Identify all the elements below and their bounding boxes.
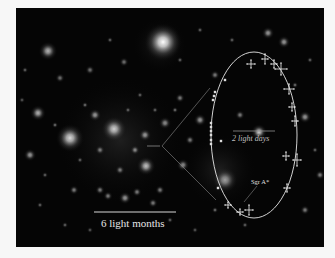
star bbox=[103, 191, 113, 201]
star bbox=[197, 27, 203, 33]
star bbox=[307, 57, 313, 63]
star bbox=[30, 105, 46, 121]
measurement-point bbox=[210, 130, 212, 132]
star bbox=[299, 111, 312, 124]
star bbox=[137, 92, 143, 98]
star bbox=[235, 110, 245, 120]
star bbox=[107, 37, 113, 43]
star bbox=[136, 156, 155, 175]
star bbox=[300, 205, 310, 215]
star bbox=[87, 227, 93, 233]
star bbox=[159, 117, 172, 130]
star bbox=[95, 185, 105, 195]
measurement-point bbox=[224, 79, 226, 81]
star bbox=[56, 124, 85, 153]
star bbox=[312, 147, 318, 153]
star bbox=[55, 73, 65, 83]
star bbox=[19, 97, 25, 103]
star bbox=[77, 157, 83, 163]
star bbox=[89, 109, 102, 122]
star bbox=[229, 37, 235, 43]
star bbox=[38, 41, 57, 60]
star bbox=[212, 167, 238, 193]
star bbox=[278, 36, 291, 49]
star bbox=[144, 23, 182, 61]
star bbox=[125, 107, 131, 113]
star bbox=[62, 222, 68, 228]
star bbox=[24, 149, 37, 162]
star bbox=[119, 57, 129, 67]
star bbox=[130, 145, 140, 155]
star bbox=[167, 217, 173, 223]
star bbox=[175, 93, 185, 103]
astronomy-image bbox=[0, 0, 335, 258]
star bbox=[177, 57, 183, 63]
star bbox=[85, 65, 95, 75]
measurement-point bbox=[210, 134, 212, 136]
star bbox=[155, 185, 165, 195]
star bbox=[292, 82, 298, 88]
star bbox=[185, 135, 195, 145]
star bbox=[95, 145, 105, 155]
star bbox=[119, 192, 132, 205]
measurement-point bbox=[213, 95, 215, 97]
inset-scale-label: 2 light days bbox=[232, 134, 269, 143]
star bbox=[315, 170, 325, 180]
star bbox=[37, 202, 43, 208]
star bbox=[210, 70, 220, 80]
measurement-point bbox=[217, 187, 219, 189]
star bbox=[132, 187, 142, 197]
measurement-point bbox=[220, 140, 222, 142]
star bbox=[139, 129, 152, 142]
measurement-point bbox=[210, 122, 212, 124]
star bbox=[115, 165, 125, 175]
star bbox=[52, 122, 58, 128]
measurement-point bbox=[210, 139, 212, 141]
star bbox=[172, 107, 178, 113]
star bbox=[192, 227, 198, 233]
main-scale-label: 6 light months bbox=[101, 217, 165, 229]
star bbox=[69, 185, 79, 195]
star bbox=[42, 172, 48, 178]
star bbox=[82, 102, 88, 108]
measurement-point bbox=[210, 143, 212, 145]
measurement-point bbox=[212, 99, 214, 101]
star bbox=[148, 198, 158, 208]
star bbox=[101, 116, 127, 142]
measurement-point bbox=[214, 91, 216, 93]
star bbox=[177, 159, 190, 172]
star bbox=[194, 114, 207, 127]
star bbox=[262, 27, 275, 40]
star bbox=[152, 107, 158, 113]
star bbox=[22, 67, 28, 73]
measurement-point bbox=[210, 126, 212, 128]
sgr-a-star-label: Sgr A* bbox=[251, 178, 269, 185]
star bbox=[212, 207, 218, 213]
star bbox=[242, 222, 248, 228]
